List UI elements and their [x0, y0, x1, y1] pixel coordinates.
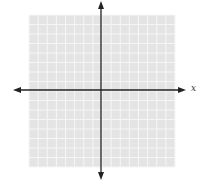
- coordinate-plane: [0, 0, 199, 182]
- x-axis-label: x: [191, 83, 196, 93]
- y-axis-arrow-down-icon: [98, 172, 104, 180]
- x-axis-arrow-left-icon: [13, 87, 21, 93]
- y-axis-arrow-up-icon: [98, 1, 104, 9]
- x-axis-arrow-right-icon: [178, 87, 186, 93]
